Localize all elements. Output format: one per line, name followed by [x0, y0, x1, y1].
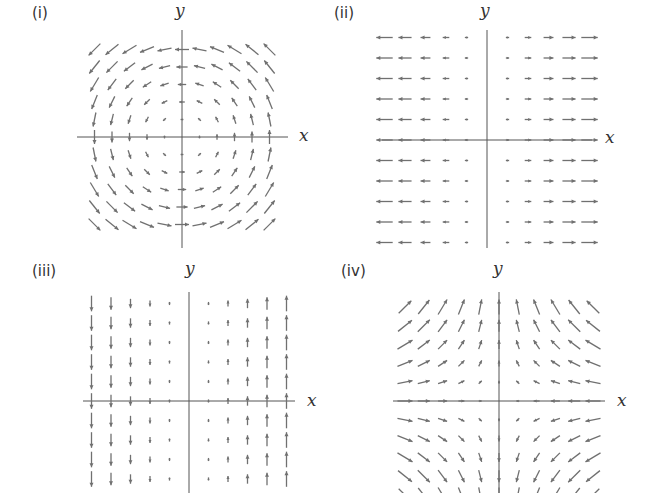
vector-arrow-icon: [568, 470, 580, 482]
vector-arrow-icon: [498, 381, 500, 384]
vector-arrow-icon: [418, 360, 430, 366]
vector-arrow-icon: [479, 453, 483, 462]
vector-arrow-icon: [418, 399, 430, 403]
vector-arrow-icon: [551, 399, 560, 403]
vector-arrow-icon: [479, 320, 483, 332]
vector-arrow-icon: [458, 418, 464, 421]
vector-arrow-icon: [568, 436, 580, 442]
vector-arrow-icon: [418, 300, 429, 314]
vector-arrow-icon: [585, 399, 600, 403]
vector-arrow-icon: [551, 470, 560, 482]
vector-arrow-icon: [551, 360, 560, 366]
vector-arrow-icon: [438, 299, 447, 314]
vector-arrow-icon: [479, 299, 483, 314]
vector-arrow-icon: [516, 360, 519, 366]
vector-arrow-icon: [551, 320, 560, 332]
vector-arrow-icon: [458, 399, 464, 402]
vector-arrow-icon: [533, 299, 539, 314]
vector-arrow-icon: [399, 489, 412, 493]
vector-arrow-icon: [568, 340, 580, 349]
vector-arrow-icon: [418, 340, 430, 349]
vector-arrow-icon: [397, 453, 412, 462]
vector-arrow-icon: [458, 320, 464, 332]
vector-arrow-icon: [585, 418, 600, 422]
vector-arrow-icon: [397, 436, 412, 442]
vector-arrow-icon: [397, 360, 412, 366]
vector-arrow-icon: [418, 320, 430, 332]
vector-arrow-icon: [479, 381, 482, 384]
vector-arrow-icon: [397, 380, 412, 384]
vector-arrow-icon: [516, 453, 520, 462]
vector-arrow-icon: [418, 470, 430, 482]
vector-arrow-icon: [497, 299, 501, 314]
vector-arrow-icon: [551, 340, 560, 349]
vector-arrow-icon: [458, 470, 464, 482]
vector-arrow-icon: [458, 299, 464, 314]
vector-arrow-icon: [516, 400, 519, 402]
vector-arrow-icon: [568, 380, 580, 384]
vector-arrow-icon: [534, 399, 540, 402]
vector-field-plot: [0, 0, 650, 493]
vector-arrow-icon: [585, 380, 600, 384]
vector-arrow-icon: [515, 487, 519, 493]
vector-arrow-icon: [479, 400, 482, 402]
vector-arrow-icon: [458, 436, 464, 442]
vector-arrow-icon: [438, 487, 447, 493]
vector-arrow-icon: [479, 487, 483, 493]
vector-arrow-icon: [534, 436, 540, 442]
vector-arrow-icon: [397, 399, 412, 403]
vector-arrow-icon: [586, 471, 600, 482]
vector-arrow-icon: [438, 360, 447, 366]
vector-arrow-icon: [498, 418, 500, 421]
vector-arrow-icon: [534, 470, 540, 482]
vector-arrow-icon: [397, 418, 412, 422]
vector-arrow-icon: [534, 418, 540, 421]
panel-iv: (iv) y x: [0, 0, 650, 493]
vector-arrow-icon: [516, 418, 519, 421]
vector-arrow-icon: [497, 487, 501, 493]
vector-arrow-icon: [568, 399, 580, 403]
vector-arrow-icon: [458, 340, 464, 349]
vector-arrow-icon: [585, 360, 600, 366]
vector-arrow-icon: [479, 360, 482, 366]
vector-arrow-icon: [479, 418, 482, 421]
vector-arrow-icon: [458, 453, 464, 462]
vector-arrow-icon: [398, 320, 412, 331]
vector-arrow-icon: [479, 470, 483, 482]
vector-arrow-icon: [418, 453, 430, 462]
vector-arrow-icon: [568, 360, 580, 366]
vector-arrow-icon: [586, 320, 600, 331]
vector-arrow-icon: [534, 320, 540, 332]
vector-arrow-icon: [418, 436, 430, 442]
vector-arrow-icon: [458, 487, 464, 493]
vector-arrow-icon: [534, 360, 540, 366]
vector-arrow-icon: [587, 301, 600, 314]
vector-arrow-icon: [397, 340, 412, 349]
vector-arrow-icon: [458, 360, 464, 366]
vector-arrow-icon: [398, 471, 412, 482]
vector-arrow-icon: [418, 380, 430, 384]
vector-arrow-icon: [569, 488, 580, 493]
vector-arrow-icon: [497, 436, 500, 442]
vector-arrow-icon: [534, 340, 540, 349]
vector-arrow-icon: [479, 436, 482, 442]
vector-arrow-icon: [497, 470, 501, 482]
vector-arrow-icon: [438, 453, 447, 462]
vector-arrow-icon: [534, 381, 540, 384]
vector-arrow-icon: [569, 300, 580, 314]
vector-arrow-icon: [533, 487, 539, 493]
vector-arrow-icon: [458, 381, 464, 384]
vector-arrow-icon: [551, 436, 560, 442]
vector-arrow-icon: [516, 436, 519, 442]
vector-arrow-icon: [516, 340, 520, 349]
vector-arrow-icon: [585, 453, 600, 462]
vector-arrow-icon: [551, 380, 560, 384]
vector-arrow-icon: [438, 320, 447, 332]
vector-arrow-icon: [534, 453, 540, 462]
vector-arrow-icon: [551, 453, 560, 462]
vector-arrow-icon: [515, 299, 519, 314]
vector-arrow-icon: [551, 487, 560, 493]
vector-arrow-icon: [568, 418, 580, 422]
vector-arrow-icon: [418, 488, 429, 493]
vector-arrow-icon: [438, 340, 447, 349]
